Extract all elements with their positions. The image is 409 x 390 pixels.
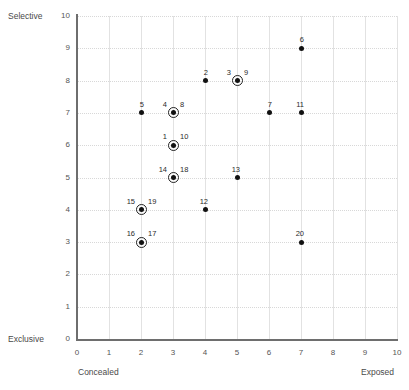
point-marker bbox=[235, 175, 240, 180]
x-tick-label: 5 bbox=[225, 349, 249, 357]
point-label: 15 bbox=[121, 198, 135, 206]
point-marker bbox=[203, 78, 208, 83]
point-marker bbox=[139, 207, 144, 212]
x-tick-label: 3 bbox=[161, 349, 185, 357]
point-marker bbox=[171, 175, 176, 180]
point-marker bbox=[171, 143, 176, 148]
y-tick-label: 1 bbox=[48, 303, 70, 311]
y-tick-label: 8 bbox=[48, 77, 70, 85]
point-marker bbox=[171, 110, 176, 115]
point-marker bbox=[139, 110, 144, 115]
point-marker bbox=[203, 207, 208, 212]
point-marker bbox=[299, 46, 304, 51]
x-axis-line bbox=[76, 339, 398, 341]
scatter-plot: 012345678910 012345678910 Selective Excl… bbox=[0, 0, 409, 390]
y-tick-label: 7 bbox=[48, 109, 70, 117]
point-label: 12 bbox=[196, 198, 208, 206]
point-label: 7 bbox=[260, 101, 272, 109]
point-label: 8 bbox=[180, 101, 194, 109]
x-axis-ticks: 012345678910 bbox=[77, 349, 397, 361]
x-tick-label: 2 bbox=[129, 349, 153, 357]
y-tick-label: 0 bbox=[48, 335, 70, 343]
y-axis-ticks: 012345678910 bbox=[44, 0, 70, 339]
y-tick-label: 2 bbox=[48, 270, 70, 278]
y-tick-label: 6 bbox=[48, 141, 70, 149]
x-tick-label: 9 bbox=[353, 349, 377, 357]
x-tick-label: 8 bbox=[321, 349, 345, 357]
point-marker bbox=[235, 78, 240, 83]
point-marker bbox=[267, 110, 272, 115]
x-tick-label: 4 bbox=[193, 349, 217, 357]
gridline-vertical bbox=[397, 16, 399, 339]
point-label: 11 bbox=[292, 101, 304, 109]
y-axis-top-caption: Selective bbox=[8, 12, 43, 21]
x-tick-label: 6 bbox=[257, 349, 281, 357]
data-points-layer: 5487112396110141813151912161720 bbox=[77, 16, 397, 339]
x-tick-label: 7 bbox=[289, 349, 313, 357]
point-label: 9 bbox=[244, 69, 258, 77]
point-label: 5 bbox=[132, 101, 144, 109]
point-label: 2 bbox=[196, 69, 208, 77]
x-tick-label: 10 bbox=[385, 349, 409, 357]
point-marker bbox=[139, 240, 144, 245]
point-marker bbox=[299, 110, 304, 115]
point-label: 1 bbox=[153, 133, 167, 141]
point-label: 16 bbox=[121, 230, 135, 238]
x-tick-label: 1 bbox=[97, 349, 121, 357]
point-label: 10 bbox=[180, 133, 194, 141]
y-tick-label: 4 bbox=[48, 206, 70, 214]
y-tick-label: 9 bbox=[48, 44, 70, 52]
point-label: 13 bbox=[228, 166, 240, 174]
y-axis-bottom-caption: Exclusive bbox=[8, 335, 44, 344]
point-label: 4 bbox=[153, 101, 167, 109]
y-tick-label: 5 bbox=[48, 174, 70, 182]
point-label: 18 bbox=[180, 166, 194, 174]
point-label: 14 bbox=[153, 166, 167, 174]
x-tick-label: 0 bbox=[65, 349, 89, 357]
x-axis-right-caption: Exposed bbox=[361, 368, 394, 377]
point-label: 3 bbox=[217, 69, 231, 77]
point-label: 17 bbox=[148, 230, 162, 238]
point-marker bbox=[299, 240, 304, 245]
point-label: 19 bbox=[148, 198, 162, 206]
y-tick-label: 3 bbox=[48, 238, 70, 246]
point-label: 20 bbox=[292, 230, 304, 238]
y-tick-label: 10 bbox=[48, 12, 70, 20]
point-label: 6 bbox=[292, 36, 304, 44]
x-axis-left-caption: Concealed bbox=[78, 368, 119, 377]
